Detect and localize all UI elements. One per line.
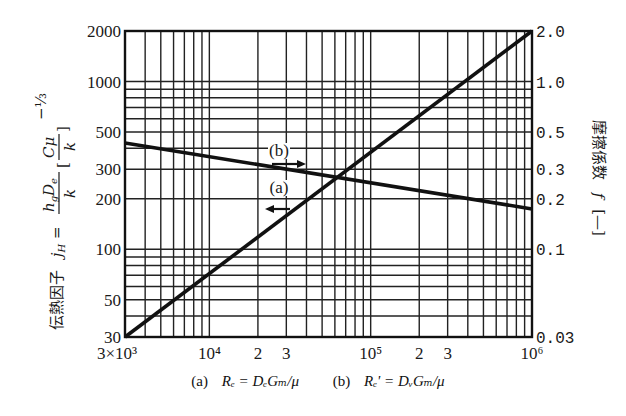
y2-tick-label: 0.2 — [536, 192, 565, 210]
caption-b-tag: (b) — [333, 373, 351, 389]
x-tick-label: 10⁶ — [521, 344, 544, 363]
caption-a-tag: (a) — [191, 373, 208, 389]
arrow-right-icon — [297, 160, 306, 168]
svg-text:k: k — [61, 142, 79, 151]
svg-text:摩擦係数 f [—]: 摩擦係数 f [—] — [590, 120, 608, 236]
right-axis-title-jp: 摩擦係数 — [590, 120, 608, 180]
x-tick-label: 10⁴ — [198, 344, 221, 363]
series-line — [125, 31, 532, 337]
y-tick-label: 50 — [104, 291, 121, 310]
svg-text:Cμ: Cμ — [40, 137, 58, 158]
y2-tick-label: 1.0 — [536, 75, 565, 93]
svg-text:hgDe: hgDe — [40, 178, 59, 212]
chart: 200010005003002001005030 2.01.00.50.30.2… — [0, 0, 626, 416]
y2-tick-label: 2.0 — [536, 24, 565, 42]
annotation-b-label: (b) — [269, 141, 289, 160]
y-tick-label: 300 — [96, 160, 122, 179]
left-axis-tick-labels: 200010005003002001005030 — [87, 22, 121, 347]
left-axis-title: 伝熱因子 jH = hgDe k [ Cμ k ] −⅓ — [32, 93, 79, 330]
y-tick-label: 500 — [96, 123, 122, 142]
y2-tick-label: 0.1 — [536, 242, 565, 260]
x-axis-caption: (a) Rₑ = DₑGₘ/μ (b) Rₑ' = DᵥGₘ/μ — [0, 372, 626, 390]
left-axis-title-jp: 伝熱因子 — [48, 270, 66, 330]
data-series — [125, 31, 532, 337]
y-tick-label: 1000 — [87, 73, 121, 92]
x-tick-label: 2 — [415, 344, 424, 363]
caption-b-formula: Rₑ' = DᵥGₘ/μ — [364, 373, 445, 389]
svg-text:伝熱因子 jH =: 伝熱因子 jH = — [48, 226, 69, 330]
svg-text:−⅓: −⅓ — [32, 93, 50, 120]
annotations: (b)(a) — [265, 141, 306, 213]
y-tick-label: 100 — [96, 240, 122, 259]
x-tick-label: 10⁵ — [359, 344, 382, 363]
svg-text:[: [ — [54, 162, 72, 168]
right-axis-tick-labels: 2.01.00.50.30.20.10.03 — [536, 24, 574, 348]
caption-a: (a) Rₑ = DₑGₘ/μ — [181, 373, 302, 389]
x-tick-label: 3 — [282, 344, 291, 363]
caption-b: (b) Rₑ' = DᵥGₘ/μ — [323, 373, 445, 389]
x-tick-label: 2 — [254, 344, 263, 363]
annotation-a-label: (a) — [270, 178, 289, 197]
x-axis-tick-labels: 3×10³10⁴2310⁵2310⁶ — [97, 344, 544, 363]
svg-text:]: ] — [54, 126, 72, 132]
y-tick-label: 2000 — [87, 22, 121, 41]
x-tick-label: 3 — [443, 344, 452, 363]
right-axis-title: 摩擦係数 f [—] — [590, 120, 608, 236]
y-tick-label: 200 — [96, 190, 122, 209]
svg-text:k: k — [61, 189, 79, 198]
y2-tick-label: 0.5 — [536, 125, 565, 143]
arrow-left-icon — [265, 205, 274, 213]
y2-tick-label: 0.3 — [536, 162, 565, 180]
x-tick-label: 3×10³ — [97, 344, 137, 363]
caption-a-formula: Rₑ = DₑGₘ/μ — [222, 373, 299, 389]
